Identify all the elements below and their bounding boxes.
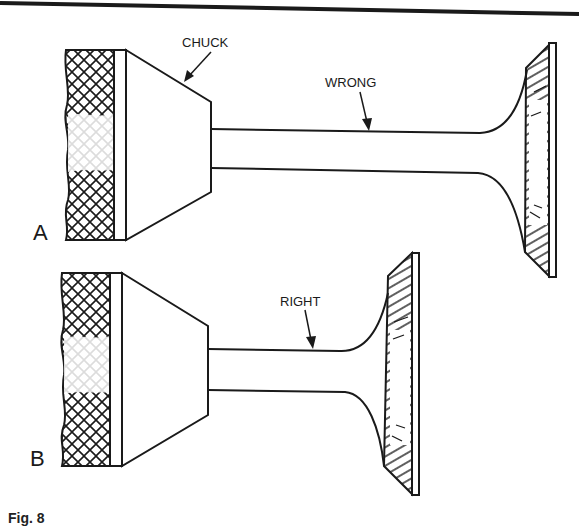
figure-caption: Fig. 8 bbox=[8, 510, 45, 526]
callout-right-label: RIGHT bbox=[280, 294, 321, 309]
valve-head bbox=[525, 43, 556, 277]
chuck-body-knurled bbox=[61, 273, 112, 466]
callout-wrong-label: WRONG bbox=[325, 75, 376, 90]
callout-chuck-label: CHUCK bbox=[182, 35, 229, 50]
chuck-body-knurled bbox=[65, 50, 116, 240]
chuck-rim bbox=[114, 50, 126, 240]
panel-b-label: B bbox=[30, 446, 45, 471]
arrow-icon bbox=[360, 92, 372, 131]
arrow-icon bbox=[305, 310, 316, 349]
top-border-rule bbox=[0, 3, 579, 14]
panel-a-label: A bbox=[33, 220, 48, 245]
valve-head bbox=[384, 253, 419, 495]
chuck-face bbox=[126, 50, 211, 240]
panel-b: RIGHT B bbox=[30, 253, 419, 495]
chuck-face bbox=[122, 273, 208, 466]
arrow-icon bbox=[184, 52, 211, 82]
chuck-rim bbox=[110, 273, 122, 466]
panel-a: CHUCK WRONG A bbox=[33, 35, 556, 277]
